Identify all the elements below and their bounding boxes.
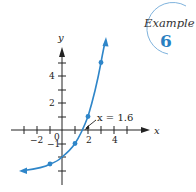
- x-axis: x −2 0 2 4: [11, 125, 160, 145]
- example-badge: Example 6: [143, 2, 195, 54]
- y-axis-label: y: [57, 32, 64, 43]
- y-tick-neg1: −1: [47, 139, 60, 149]
- point-1: [73, 141, 78, 146]
- exponential-curve: [19, 37, 109, 174]
- point-3: [99, 60, 104, 65]
- curve-path: [24, 42, 105, 171]
- x-tick-4: 4: [112, 135, 118, 145]
- root-annotation: x = 1.6: [85, 112, 134, 130]
- y-axis-arrow-icon: [59, 47, 65, 57]
- badge-number: 6: [160, 31, 172, 51]
- point-2: [86, 114, 91, 119]
- point-neg1: [48, 162, 53, 167]
- badge-title: Example: [143, 16, 195, 30]
- y-tick-2: 2: [49, 98, 55, 108]
- x-tick-neg2: −2: [30, 135, 43, 145]
- annotation-label: x = 1.6: [97, 112, 133, 123]
- y-tick-4: 4: [49, 71, 55, 81]
- x-tick-2: 2: [86, 135, 92, 145]
- x-axis-label: x: [154, 125, 160, 136]
- graph-svg: Example 6 x −2 0 2 4: [0, 0, 196, 192]
- x-axis-arrow-icon: [141, 127, 150, 133]
- example-figure: Example 6 x −2 0 2 4: [0, 0, 196, 192]
- curve-left-arrow-icon: [19, 168, 27, 175]
- curve-right-arrow-icon: [103, 37, 109, 47]
